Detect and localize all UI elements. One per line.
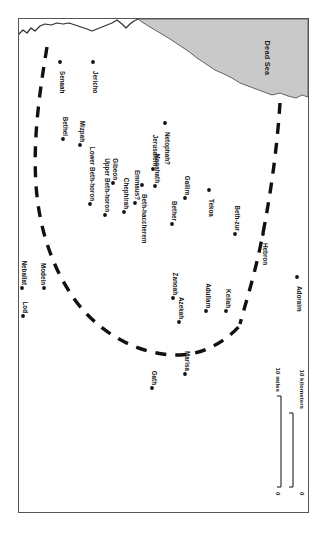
site-label: Adoraim <box>296 286 303 312</box>
site-label: Lower Beth-horon <box>89 147 96 201</box>
site-label: Keilah <box>225 289 232 308</box>
scale-miles-zero: 0 <box>275 492 282 496</box>
dead-sea-label: Dead Sea <box>263 41 272 77</box>
site-dot <box>78 143 82 147</box>
scale-miles-label: 10 miles <box>275 368 282 393</box>
site-label: Jericho <box>92 71 99 94</box>
site-dot <box>111 181 115 185</box>
site-label: Senaah <box>59 71 66 94</box>
site-label: Adullam <box>205 283 212 308</box>
site-label: Zanoah <box>172 273 179 296</box>
site-dot <box>140 183 144 187</box>
site-dot <box>88 202 92 206</box>
site-emmaus: Emmaus? <box>133 170 141 205</box>
site-dot <box>207 188 211 192</box>
site-label: Lod <box>22 301 29 313</box>
site-label: Hebron <box>262 243 269 265</box>
site-dot <box>183 372 187 376</box>
site-dot <box>58 60 62 64</box>
site-label: Mizpah <box>78 121 86 142</box>
scale-km-label: 10 kilometers <box>299 369 306 409</box>
dead-sea-label-line1: Dead Sea <box>263 41 272 77</box>
site-dot <box>170 222 174 226</box>
site-label: Beth-zur <box>234 205 241 231</box>
site-label: Netophah? <box>163 132 171 165</box>
site-dot <box>20 286 24 290</box>
site-dot <box>183 196 187 200</box>
site-dot <box>177 320 181 324</box>
site-label: Neballat <box>21 261 28 286</box>
site-dot <box>91 60 95 64</box>
site-dot <box>224 309 228 313</box>
site-label: Azekah <box>178 297 185 319</box>
site-label: Tekoa <box>208 199 215 217</box>
site-label: Bether <box>171 201 178 221</box>
site-dot <box>103 213 107 217</box>
site-dot <box>233 232 237 236</box>
site-label: Manahath <box>154 154 161 184</box>
site-chephirah: Chephirah <box>122 178 130 214</box>
site-manahath: Manahath <box>153 154 161 188</box>
site-dot <box>42 286 46 290</box>
site-label: Gath <box>151 371 158 385</box>
site-dot <box>150 386 154 390</box>
site-dot <box>133 201 137 205</box>
site-upper-beth-horon: Upper Beth-horon <box>103 158 111 217</box>
site-label: Marisa <box>184 351 191 371</box>
site-label: Upper Beth-horon <box>103 158 111 212</box>
site-label: Beth-haccherem <box>141 194 148 244</box>
site-label: Chephirah <box>122 178 130 209</box>
map-figure: Dead Sea Senaah Jericho Bethel Mizpah Lo… <box>0 0 326 546</box>
site-label: Modein <box>40 263 47 285</box>
site-dot <box>171 296 175 300</box>
site-dot <box>153 184 157 188</box>
site-label: Emmaus? <box>134 170 141 200</box>
site-lower-beth-horon: Lower Beth-horon <box>88 147 96 206</box>
site-dot <box>61 137 65 141</box>
site-label: Gallim <box>184 176 191 196</box>
site-dot <box>163 121 167 125</box>
site-dot <box>21 314 25 318</box>
site-dot <box>261 232 265 236</box>
site-dot <box>122 210 126 214</box>
site-dot <box>295 275 299 279</box>
map-canvas: Dead Sea Senaah Jericho Bethel Mizpah Lo… <box>0 0 326 546</box>
site-dot <box>204 309 208 313</box>
scale-km-zero: 0 <box>299 492 306 496</box>
site-label: Bethel <box>62 117 69 136</box>
site-label: Gibeon <box>112 158 119 180</box>
